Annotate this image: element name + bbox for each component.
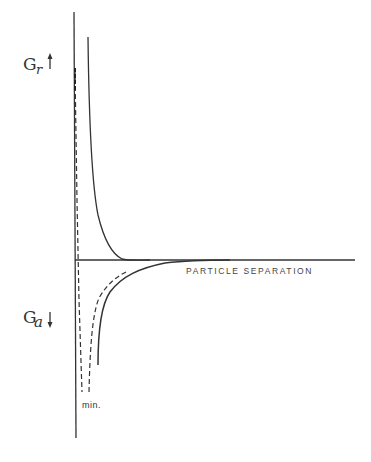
svg-text:a: a xyxy=(34,313,43,331)
attractive-energy-label: G a xyxy=(23,307,53,331)
svg-text:r: r xyxy=(36,62,43,77)
repulsive-energy-label: G r xyxy=(23,53,53,77)
x-axis-label: PARTICLE SEPARATION xyxy=(186,266,313,276)
down-arrow-icon xyxy=(48,312,53,328)
repulsive-energy-curve xyxy=(88,37,150,260)
up-arrow-icon xyxy=(48,53,53,69)
minimum-label: min. xyxy=(82,400,101,410)
svg-text:G: G xyxy=(23,54,37,74)
energy-diagram: G r G a PARTICLE SEPARATION min. xyxy=(0,0,371,462)
net-energy-curve-right-branch xyxy=(89,272,126,392)
